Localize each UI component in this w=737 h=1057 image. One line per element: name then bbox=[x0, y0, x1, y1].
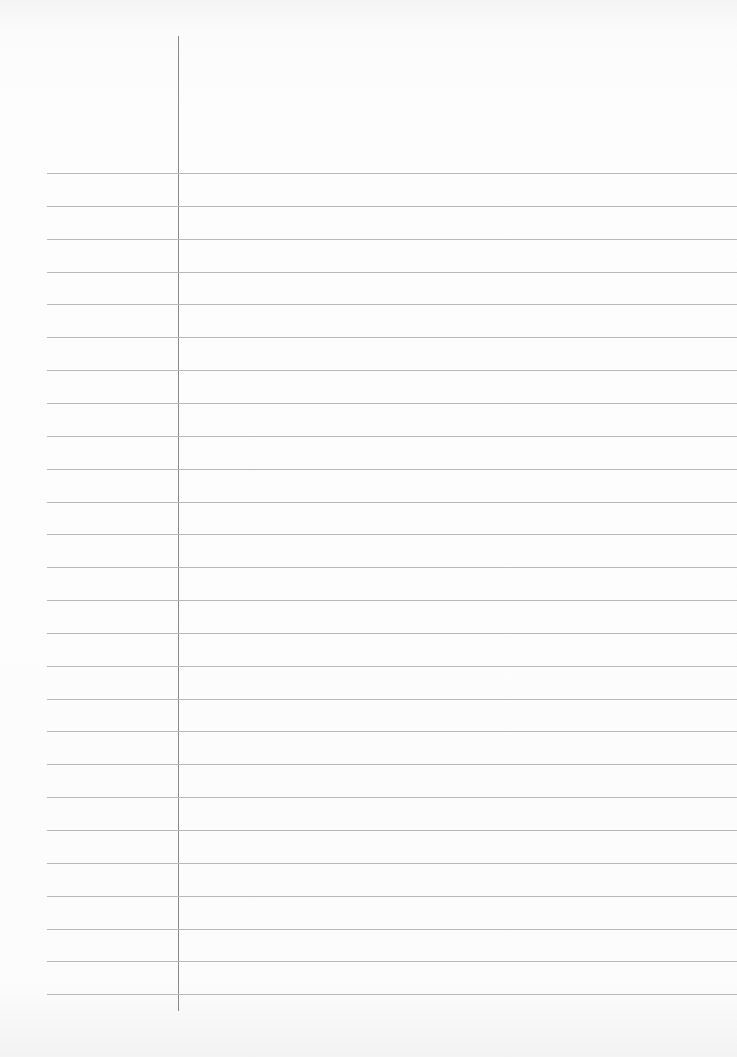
ruled-line bbox=[47, 633, 737, 634]
ruled-line bbox=[47, 272, 737, 273]
ruled-line bbox=[47, 173, 737, 174]
ruled-line bbox=[47, 666, 737, 667]
ruled-line bbox=[47, 534, 737, 535]
ruled-line bbox=[47, 403, 737, 404]
ruled-line bbox=[47, 239, 737, 240]
ruled-line bbox=[47, 502, 737, 503]
ruled-line bbox=[47, 206, 737, 207]
ruled-line bbox=[47, 994, 737, 995]
ruled-line bbox=[47, 469, 737, 470]
ruled-line bbox=[47, 567, 737, 568]
ruled-line bbox=[47, 929, 737, 930]
ruled-line bbox=[47, 764, 737, 765]
ruled-line bbox=[47, 436, 737, 437]
margin-line bbox=[178, 36, 179, 1011]
ruled-line bbox=[47, 370, 737, 371]
lined-paper-sheet bbox=[0, 0, 737, 1057]
ruled-line bbox=[47, 731, 737, 732]
ruled-line bbox=[47, 304, 737, 305]
ruled-line bbox=[47, 337, 737, 338]
ruled-line bbox=[47, 961, 737, 962]
ruled-line bbox=[47, 699, 737, 700]
ruled-line bbox=[47, 797, 737, 798]
ruled-line bbox=[47, 830, 737, 831]
ruled-line bbox=[47, 863, 737, 864]
ruled-line bbox=[47, 896, 737, 897]
ruled-line bbox=[47, 600, 737, 601]
